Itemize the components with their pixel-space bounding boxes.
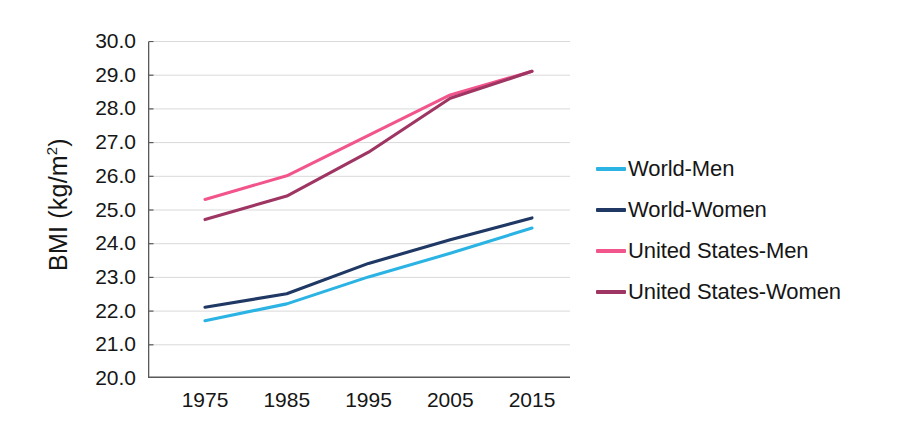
x-axis-tick-label: 1975 [165,388,245,412]
plot-svg [148,41,570,378]
y-axis-tick-label: 24.0 [62,231,136,255]
x-axis-tick-label: 2005 [410,388,490,412]
legend-color-swatch-icon [596,167,626,171]
chart-legend: World-MenWorld-WomenUnited States-MenUni… [596,148,896,312]
legend-item[interactable]: United States-Men [596,230,896,271]
y-axis-tick-label: 20.0 [62,366,136,390]
legend-color-swatch-icon [596,249,626,253]
legend-item[interactable]: World-Women [596,189,896,230]
y-axis-title-superscript: 2 [43,147,60,156]
legend-color-swatch-icon [596,290,626,294]
y-axis-tick-label: 28.0 [62,96,136,120]
x-axis-tick-label: 1995 [329,388,409,412]
bmi-line-chart: BMI (kg/m2) 30.029.028.027.026.025.024.0… [0,0,908,438]
y-axis-tick-label: 25.0 [62,198,136,222]
legend-color-swatch-icon [596,208,626,212]
y-axis-tick-label: 21.0 [62,332,136,356]
legend-item[interactable]: United States-Women [596,271,896,312]
series-line-world-men [205,228,532,321]
legend-item[interactable]: World-Men [596,148,896,189]
y-axis-tick-label: 26.0 [62,164,136,188]
legend-label: World-Men [628,156,734,182]
x-axis-tick-label: 2015 [492,388,572,412]
y-axis-tick-label: 30.0 [62,29,136,53]
y-axis-tick-label: 27.0 [62,130,136,154]
x-axis-tick-label: 1985 [247,388,327,412]
y-axis-tick-label: 29.0 [62,63,136,87]
legend-label: World-Women [628,197,767,223]
y-axis-tick-label: 23.0 [62,265,136,289]
series-line-world-women [205,218,532,307]
x-axis-tick-labels: 19751985199520052015 [148,388,570,422]
series-line-united-states-women [205,71,532,219]
legend-label: United States-Women [628,279,841,305]
plot-area [148,41,570,378]
legend-label: United States-Men [628,238,809,264]
y-axis-tick-labels: 30.029.028.027.026.025.024.023.022.021.0… [62,41,136,378]
y-axis-tick-label: 22.0 [62,299,136,323]
series-line-united-states-men [205,71,532,199]
